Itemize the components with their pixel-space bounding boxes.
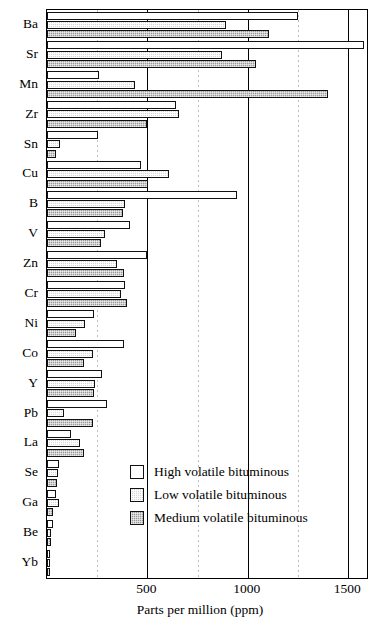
bar-Zn-high xyxy=(47,251,147,259)
y-axis-label-Cr: Cr xyxy=(25,285,39,301)
y-axis-label-Ni: Ni xyxy=(25,315,39,331)
bar-B-med xyxy=(47,209,123,217)
legend-swatch-med xyxy=(130,511,144,525)
bar-Zn-low xyxy=(47,260,117,268)
bar-Ni-high xyxy=(47,310,94,318)
legend-item-low: Low volatile bituminous xyxy=(130,483,330,506)
bar-Se-med xyxy=(47,479,57,487)
bar-Mn-high xyxy=(47,71,99,79)
legend-label-low: Low volatile bituminous xyxy=(154,487,287,503)
bar-Y-med xyxy=(47,389,94,397)
chart-figure: BaSrMnZrSnCuBVZnCrNiCoYPbLaSeGaBeYb 5001… xyxy=(0,0,378,640)
x-tick-label-500: 500 xyxy=(136,581,156,597)
bar-Cr-high xyxy=(47,281,125,289)
y-axis-label-Yb: Yb xyxy=(22,554,39,570)
bar-Zr-med xyxy=(47,120,147,128)
chart-legend: High volatile bituminousLow volatile bit… xyxy=(130,460,330,529)
x-axis-title-text: Parts per million (ppm) xyxy=(137,602,263,618)
bar-Se-low xyxy=(47,469,58,477)
y-axis-label-Y: Y xyxy=(28,375,38,391)
bar-Ga-med xyxy=(47,508,53,516)
bar-Ga-low xyxy=(47,499,59,507)
y-axis-label-Cu: Cu xyxy=(22,165,38,181)
bar-Be-low xyxy=(47,529,51,537)
bar-Sn-high xyxy=(47,131,98,139)
y-axis-label-Be: Be xyxy=(23,524,38,540)
bar-Ba-low xyxy=(47,21,226,29)
y-axis-label-Co: Co xyxy=(22,345,38,361)
bar-Yb-high xyxy=(47,550,50,558)
bar-V-low xyxy=(47,230,105,238)
legend-label-med: Medium volatile bituminous xyxy=(154,510,308,526)
y-axis-label-Se: Se xyxy=(25,464,39,480)
bar-Sn-low xyxy=(47,140,60,148)
bar-Yb-med xyxy=(47,568,50,576)
y-axis-label-Ba: Ba xyxy=(23,16,38,32)
bar-Co-low xyxy=(47,350,93,358)
bar-B-low xyxy=(47,200,125,208)
bar-Ba-high xyxy=(47,12,298,20)
y-axis-label-Zn: Zn xyxy=(23,255,38,271)
bar-Be-med xyxy=(47,538,51,546)
bar-Pb-med xyxy=(47,419,93,427)
y-axis-label-V: V xyxy=(28,225,38,241)
bar-Ga-high xyxy=(47,490,56,498)
bar-Cu-med xyxy=(47,180,148,188)
legend-swatch-high xyxy=(130,465,144,479)
bar-Co-high xyxy=(47,340,124,348)
y-axis-label-Sr: Sr xyxy=(26,46,38,62)
bar-La-high xyxy=(47,430,71,438)
bar-Sr-low xyxy=(47,51,222,59)
bar-Cr-low xyxy=(47,290,121,298)
bar-Mn-med xyxy=(47,90,328,98)
legend-item-med: Medium volatile bituminous xyxy=(130,506,330,529)
y-axis-label-Sn: Sn xyxy=(24,136,38,152)
bar-V-high xyxy=(47,221,130,229)
bar-Zr-high xyxy=(47,101,176,109)
bar-Sr-high xyxy=(47,41,364,49)
y-axis-label-Ga: Ga xyxy=(22,494,38,510)
bar-La-low xyxy=(47,439,80,447)
bar-Pb-low xyxy=(47,409,64,417)
bar-Zn-med xyxy=(47,269,124,277)
legend-item-high: High volatile bituminous xyxy=(130,460,330,483)
legend-label-high: High volatile bituminous xyxy=(154,464,289,480)
bar-Ba-med xyxy=(47,30,269,38)
bar-Mn-low xyxy=(47,81,135,89)
bar-Se-high xyxy=(47,460,59,468)
bar-Y-low xyxy=(47,380,95,388)
bar-Y-high xyxy=(47,370,102,378)
legend-swatch-low xyxy=(130,488,144,502)
bar-Ni-low xyxy=(47,320,85,328)
bar-Zr-low xyxy=(47,110,179,118)
bar-Cu-high xyxy=(47,161,141,169)
y-axis-label-B: B xyxy=(29,195,38,211)
y-axis-label-Zr: Zr xyxy=(25,106,38,122)
bar-Co-med xyxy=(47,359,84,367)
bar-Be-high xyxy=(47,520,53,528)
bar-Cr-med xyxy=(47,299,127,307)
y-axis-label-Pb: Pb xyxy=(24,405,38,421)
bar-Sn-med xyxy=(47,150,56,158)
y-axis-label-La: La xyxy=(24,434,38,450)
bar-Cu-low xyxy=(47,170,169,178)
x-tick-label-1000: 1000 xyxy=(233,581,260,597)
x-tick-label-1500: 1500 xyxy=(334,581,361,597)
y-axis-category-labels: BaSrMnZrSnCuBVZnCrNiCoYPbLaSeGaBeYb xyxy=(0,9,42,579)
bar-Yb-low xyxy=(47,559,50,567)
bar-B-high xyxy=(47,191,237,199)
bar-Pb-high xyxy=(47,400,107,408)
x-axis-tick-labels: 50010001500 xyxy=(46,581,368,601)
bar-Sr-med xyxy=(47,60,256,68)
x-axis-title: Parts per million (ppm) xyxy=(0,602,378,618)
bar-La-med xyxy=(47,449,84,457)
bar-V-med xyxy=(47,239,101,247)
y-axis-label-Mn: Mn xyxy=(19,76,38,92)
bar-Ni-med xyxy=(47,329,76,337)
